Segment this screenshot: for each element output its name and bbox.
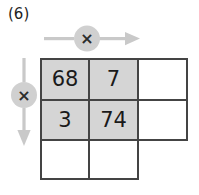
row-operator-arrow: × — [44, 26, 144, 52]
grid-cell-r0c2[interactable] — [137, 58, 188, 101]
grid-cell-r1c1[interactable]: 74 — [88, 99, 139, 141]
grid-cell-r1c2[interactable] — [137, 99, 188, 141]
multiply-icon: × — [80, 29, 93, 48]
multiplication-grid-exercise: (6) × × 68 7 3 74 — [0, 0, 199, 195]
arrow-shaft-right — [99, 37, 127, 40]
problem-number-label: (6) — [8, 7, 29, 22]
grid-cell-r1c0[interactable]: 3 — [40, 99, 90, 141]
grid-cell-r0c1[interactable]: 7 — [88, 58, 139, 101]
grid-cell-r0c0[interactable]: 68 — [40, 58, 90, 101]
arrowhead-down-icon — [17, 130, 30, 146]
arrowhead-right-icon — [125, 32, 140, 45]
grid-cell-r2c1[interactable] — [88, 139, 139, 180]
column-operator-arrow: × — [8, 58, 40, 150]
arrow-shaft-top — [22, 58, 25, 82]
arrow-shaft-left — [44, 37, 74, 40]
grid-cell-r2c2 — [137, 139, 188, 180]
arrow-shaft-bottom — [22, 108, 25, 132]
multiply-icon: × — [17, 86, 30, 105]
grid: 68 7 3 74 — [40, 58, 188, 180]
grid-cell-r2c0[interactable] — [40, 139, 90, 180]
